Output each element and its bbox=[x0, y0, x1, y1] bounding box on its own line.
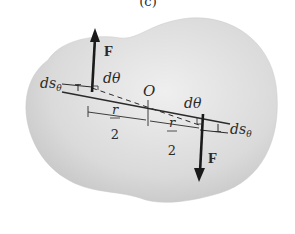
figure-canvas: (c) F F dθ dθ bbox=[0, 0, 295, 234]
r-half-right-numerator: r bbox=[169, 115, 176, 130]
r-half-left-denominator: 2 bbox=[111, 127, 119, 142]
force-label-bottom: F bbox=[208, 150, 217, 166]
dtheta-label-left: dθ bbox=[103, 70, 121, 86]
r-half-left-numerator: r bbox=[112, 102, 119, 117]
dtheta-label-right: dθ bbox=[184, 95, 202, 111]
origin-label: O bbox=[143, 82, 155, 100]
r-half-right-denominator: 2 bbox=[168, 143, 176, 158]
couple-diagram: (c) F F dθ dθ bbox=[0, 0, 295, 234]
rigid-body bbox=[26, 18, 277, 203]
force-up-arrowhead bbox=[90, 28, 100, 42]
force-label-top: F bbox=[104, 43, 113, 59]
caption-fragment: (c) bbox=[139, 0, 156, 9]
